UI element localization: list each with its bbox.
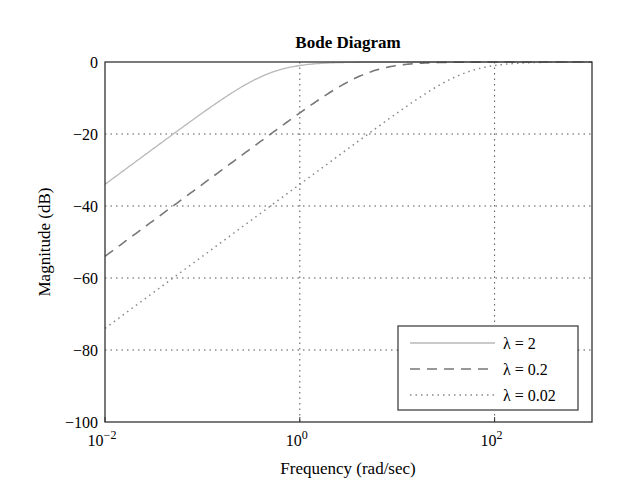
legend-label: λ = 0.2 bbox=[503, 361, 548, 378]
y-tick-label: −100 bbox=[65, 414, 98, 431]
y-axis-ticks: 0−20−40−60−80−100 bbox=[65, 54, 98, 431]
curve-dashed bbox=[105, 62, 592, 256]
y-tick-label: 0 bbox=[90, 54, 98, 71]
legend: λ = 2λ = 0.2λ = 0.02 bbox=[398, 326, 578, 410]
curve-dotted bbox=[105, 62, 592, 328]
legend-label: λ = 0.02 bbox=[503, 387, 556, 404]
curve-solid bbox=[105, 62, 592, 184]
x-tick-label: 100 bbox=[286, 428, 308, 449]
x-tick-label: 10−2 bbox=[88, 428, 117, 449]
x-axis-label: Frequency (rad/sec) bbox=[280, 459, 415, 478]
y-tick-label: −80 bbox=[73, 342, 98, 359]
chart-title: Bode Diagram bbox=[295, 33, 400, 52]
x-tick-label: 102 bbox=[481, 428, 503, 449]
y-axis-label: Magnitude (dB) bbox=[35, 187, 54, 296]
y-tick-label: −60 bbox=[73, 270, 98, 287]
y-tick-label: −20 bbox=[73, 126, 98, 143]
y-tick-label: −40 bbox=[73, 198, 98, 215]
legend-label: λ = 2 bbox=[503, 335, 536, 352]
bode-diagram-chart: Bode Diagram 0−20−40−60−80−100 10−210010… bbox=[0, 0, 623, 503]
data-curves bbox=[105, 62, 592, 328]
